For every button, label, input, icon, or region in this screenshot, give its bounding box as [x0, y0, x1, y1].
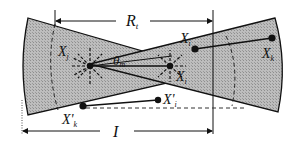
- point-xi: [191, 45, 198, 52]
- label-xi-prime: X'i: [162, 92, 177, 109]
- diagram-canvas: Rt I θm Xj Xi Xi Xk X'k X'i: [0, 0, 300, 145]
- label-xi: Xi: [179, 31, 191, 48]
- beam-diagram: Rt I θm Xj Xi Xi Xk X'k X'i: [0, 0, 300, 145]
- point-xk-prime: [79, 102, 86, 109]
- label-range: Rt: [125, 12, 139, 31]
- xk-prime-to-xi-prime-line: [83, 100, 158, 106]
- label-distance: I: [112, 123, 119, 140]
- label-xk-prime: X'k: [61, 112, 78, 129]
- point-xk: [268, 34, 275, 41]
- left-sensor-dot: [87, 63, 93, 69]
- point-xi-prime: [155, 97, 161, 103]
- right-sensor-dot: [167, 63, 173, 69]
